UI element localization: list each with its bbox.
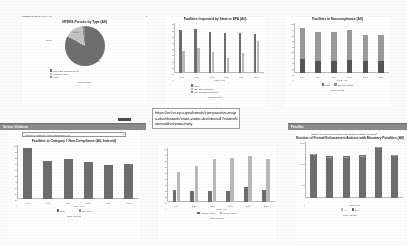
bar-stacked[interactable] [363,35,369,74]
bar[interactable] [104,165,113,199]
bar-group[interactable] [244,148,252,202]
chevron-down-icon[interactable]: ▾ [376,132,377,135]
plot-area[interactable]: 100 90 80 70 60 50 40 30 20 10 0 [8,145,140,207]
bar-group[interactable] [226,148,234,202]
bar-stacked[interactable] [347,30,353,74]
bar[interactable] [242,53,244,73]
bar[interactable] [227,58,229,73]
top-filter-strip[interactable]: NPDES Permits by Type (All) ▾ [22,14,147,18]
bar-group[interactable] [173,148,181,202]
legend-item[interactable]: Major [50,76,59,78]
bar[interactable]: 1,120 [326,156,333,198]
bar-segment-other[interactable] [315,32,321,61]
bar[interactable] [124,164,133,199]
bar[interactable] [213,159,217,202]
bar-series[interactable] [18,145,140,199]
bar-group[interactable] [190,148,198,202]
bar[interactable] [266,159,270,202]
bar-series[interactable]: 1,200 1,120 1,130 1,160 1,390 1,170 [306,142,404,198]
bar[interactable] [195,166,199,202]
bar[interactable]: 1,130 [343,156,350,198]
bar[interactable] [173,190,177,202]
top-filter-label: NPDES Permits by Type (All) [22,15,52,17]
bar[interactable] [23,148,32,199]
bar[interactable] [84,162,93,200]
plot-area[interactable]: 90 80 70 60 50 40 30 20 10 0 20 [165,23,265,81]
bar-stacked[interactable] [315,32,321,74]
bar[interactable]: 1,170 [391,155,398,199]
legend-item[interactable]: State [191,84,199,86]
x-axis-labels: 2017 2018 2019 2020 2021 2022 [295,76,390,78]
bar[interactable] [182,51,184,73]
bar-stacked[interactable] [378,35,384,74]
bar-group[interactable] [208,148,216,202]
bar[interactable] [208,191,212,202]
bar-stacked[interactable] [331,32,337,74]
chevron-down-icon[interactable]: ▾ [146,15,147,18]
bar-segment-other[interactable] [331,32,337,61]
pie-chart[interactable]: 82.8% 15.0% 2.2% [22,26,147,66]
chart-footer-links[interactable]: Data | Export [285,89,390,91]
bar-segment-serious[interactable] [378,61,384,73]
bar-segment-serious[interactable] [300,59,306,73]
plot-area[interactable]: 100 90 80 70 60 50 40 30 20 10 0 [285,23,390,81]
bar[interactable] [226,191,230,202]
bar[interactable] [197,48,199,74]
bar[interactable]: 1,390 [375,147,382,199]
legend-item[interactable]: Serious Violation [334,83,353,85]
bar-stacked[interactable] [300,28,306,73]
bar-group[interactable] [209,23,214,73]
legend-item[interactable]: All [341,208,347,210]
chart-title: NPDES Permits by Type (All) [22,20,147,24]
bar[interactable] [244,187,248,202]
bar[interactable] [64,159,73,199]
bar-group[interactable] [179,23,184,73]
bar[interactable]: 1,160 [359,155,366,198]
bar-segment-serious[interactable] [363,61,369,73]
bar-series[interactable] [175,23,265,73]
bar-segment-serious[interactable] [315,61,321,74]
legend-item[interactable]: Informal Actions [197,212,215,214]
legend-item[interactable]: Other [322,83,331,85]
bar-segment-other[interactable] [347,30,353,60]
bar-series[interactable] [295,23,390,73]
bar-segment-other[interactable] [363,35,369,62]
bar-series[interactable] [168,148,276,202]
bar[interactable] [212,52,214,73]
serious-violations-select[interactable]: Facilities in Category 1 Non-Compliance … [22,132,126,137]
plot-area[interactable]: 100 90 80 70 60 50 40 30 20 10 0 [158,148,276,210]
legend-item[interactable]: EPA Only [79,209,91,211]
bar-group[interactable] [194,23,199,73]
chart-footer-links[interactable]: Data | Export [158,217,276,219]
legend-item[interactable]: State [57,209,65,211]
chart-footer-links[interactable]: Data | Export [8,215,140,217]
bar-group[interactable] [239,23,244,73]
bar[interactable] [43,161,52,200]
legend-label: Other [325,84,330,86]
bar-segment-other[interactable] [300,28,306,59]
legend-item[interactable]: Formal Actions [220,212,237,214]
bar[interactable] [257,41,259,74]
bar-segment-serious[interactable] [347,60,353,73]
bar-group[interactable] [254,23,259,73]
chart-footer-links[interactable]: Data | Export [22,81,147,83]
legend-item[interactable]: EPA [352,208,359,210]
bar[interactable] [230,158,234,202]
bar-group[interactable] [224,23,229,73]
bar[interactable]: 1,200 [310,154,317,199]
bar[interactable] [248,156,252,202]
bar-segment-other[interactable] [378,35,384,62]
legend-item[interactable]: General Permit [50,73,67,75]
bar[interactable] [177,172,181,202]
bar-group[interactable] [262,148,270,202]
plot-area[interactable]: 1,500 1,000 500 0 1,200 1,120 1,130 1,16… [296,142,404,206]
legend-item[interactable]: EPA and State Conducted [191,91,218,93]
legend-item[interactable]: EPA Only Conducted [191,88,214,90]
chart-footer-links[interactable]: Data | Export [296,214,404,216]
chevron-down-icon[interactable]: ▾ [123,133,124,136]
bar[interactable] [190,191,194,202]
legend-item[interactable]: Non-major Individual Permit [50,69,79,71]
bar-segment-serious[interactable] [331,61,337,74]
chart-footer-links[interactable]: Data | Export [165,96,265,98]
bar[interactable] [262,190,266,202]
